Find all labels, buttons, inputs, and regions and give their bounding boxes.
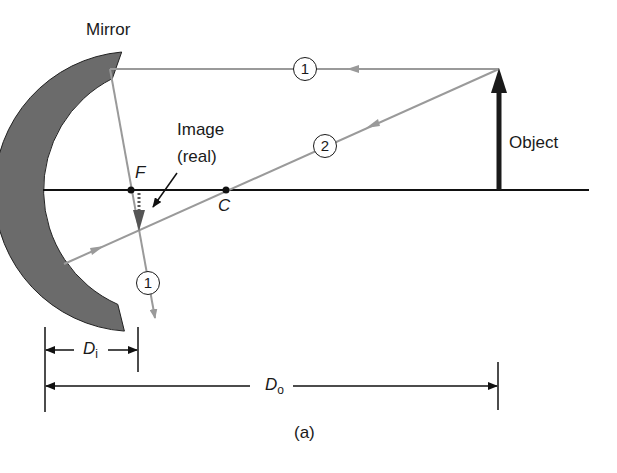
do-label: Do (263, 375, 286, 397)
ray-2-incident-arrow (366, 119, 380, 128)
ray-1-marker-bottom: 1 (136, 271, 160, 295)
do-label-main: D (265, 375, 277, 394)
di-label: Di (81, 339, 100, 361)
ray-2 (64, 69, 499, 264)
di-label-sub: i (95, 347, 98, 361)
di-label-main: D (83, 339, 95, 358)
image-label: Image (177, 120, 224, 140)
center-of-curvature-label: C (218, 196, 230, 216)
figure-caption: (a) (294, 423, 315, 443)
do-label-sub: o (277, 383, 284, 397)
mirror-label: Mirror (86, 20, 130, 40)
object-label: Object (509, 133, 558, 153)
center-of-curvature-dot (223, 187, 230, 194)
image-real-label: (real) (177, 147, 217, 167)
ray-1-direction-arrow (347, 65, 359, 73)
concave-mirror (0, 52, 124, 331)
concave-mirror-ray-diagram: Mirror Image (real) F C Object 1 2 1 Di … (0, 0, 617, 473)
focal-point-label: F (135, 163, 145, 183)
ray-1-marker-top: 1 (293, 57, 317, 81)
ray-2-marker: 2 (313, 134, 337, 158)
ray-2-reflected-arrow (90, 246, 104, 255)
focal-point-dot (128, 187, 135, 194)
